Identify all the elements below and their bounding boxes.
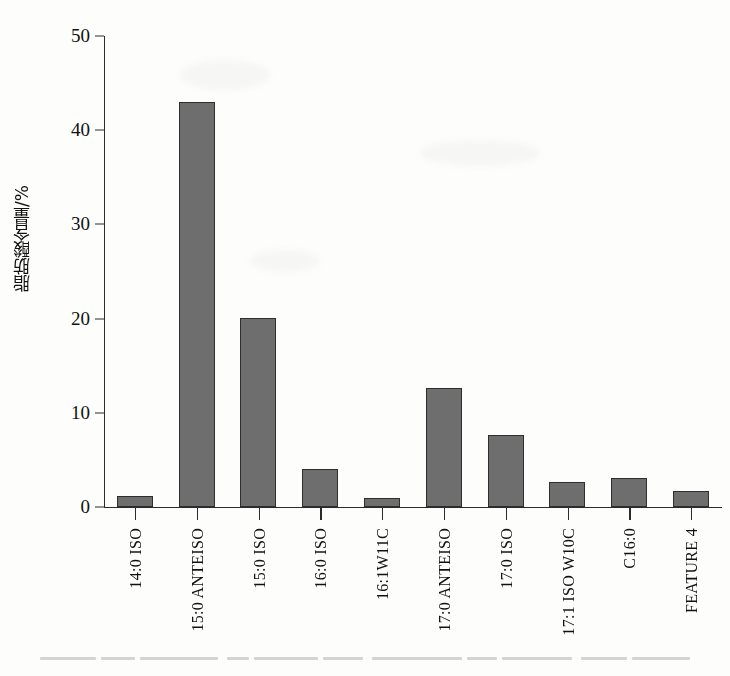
x-tick-label: 17:0 ANTEISO [436, 528, 454, 632]
bar-chart-figure: 脂肪酸含量/% 01020304050 14:0 ISO15:0 ANTEISO… [0, 0, 730, 676]
y-tick-mark [95, 130, 104, 131]
bar [179, 102, 215, 507]
x-tick-label: 14:0 ISO [127, 528, 145, 589]
x-tick-mark [259, 508, 260, 520]
y-tick-label: 50 [50, 25, 90, 47]
bar [240, 318, 276, 507]
y-tick-mark [95, 318, 104, 319]
y-tick-label: 10 [50, 402, 90, 424]
x-tick-mark [197, 508, 198, 520]
x-tick-label: FEATURE 4 [683, 528, 701, 613]
x-tick-mark [382, 508, 383, 520]
x-tick-mark [629, 508, 630, 520]
x-tick-label: 15:0 ISO [251, 528, 269, 589]
bar-slot [228, 36, 290, 507]
bar [673, 491, 709, 507]
bar [426, 388, 462, 507]
bar-slot [537, 36, 599, 507]
y-axis-title: 脂肪酸含量/% [14, 185, 42, 292]
x-tick-mark [320, 508, 321, 520]
x-tick-label: 17:1 ISO W10C [560, 528, 578, 636]
bar [549, 482, 585, 507]
x-tick-mark [444, 508, 445, 520]
x-tick-label: 15:0 ANTEISO [189, 528, 207, 632]
x-tick-label: 17:0 ISO [498, 528, 516, 589]
y-tick-mark [95, 412, 104, 413]
x-tick-mark [568, 508, 569, 520]
bar-slot [475, 36, 537, 507]
scan-artifact-footer [40, 648, 700, 662]
y-tick-label: 40 [50, 119, 90, 141]
bar [364, 498, 400, 507]
bar-slot [660, 36, 722, 507]
bar [488, 435, 524, 507]
x-tick-label: C16:0 [621, 528, 639, 569]
bar [117, 496, 153, 507]
x-tick-label: 16:0 ISO [312, 528, 330, 589]
x-tick-mark [506, 508, 507, 520]
bar-slot [289, 36, 351, 507]
y-tick-label: 30 [50, 213, 90, 235]
y-tick-label: 0 [50, 496, 90, 518]
bar-slot [598, 36, 660, 507]
bar-series [104, 36, 722, 507]
y-tick-mark [95, 224, 104, 225]
bar [611, 478, 647, 507]
x-tick-mark [691, 508, 692, 520]
bar-slot [166, 36, 228, 507]
y-tick-label: 20 [50, 308, 90, 330]
y-tick-mark [95, 36, 104, 37]
bar-slot [104, 36, 166, 507]
bar-slot [351, 36, 413, 507]
y-tick-mark [95, 507, 104, 508]
bar-slot [413, 36, 475, 507]
x-tick-label: 16:1W11C [374, 528, 392, 600]
x-tick-mark [135, 508, 136, 520]
bar [302, 469, 338, 507]
